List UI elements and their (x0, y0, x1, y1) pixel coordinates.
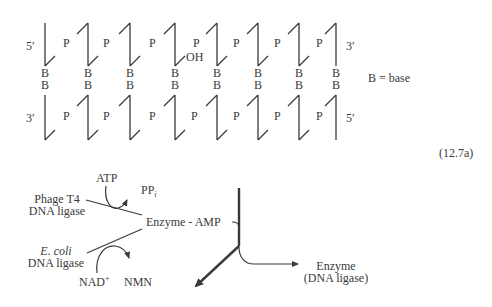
ecoli-line2: DNA ligase (28, 256, 84, 270)
bottom-strand-nucleotide (45, 95, 55, 140)
phosphate-label: P (63, 37, 70, 49)
atp-label: ATP (96, 172, 117, 184)
nad-text: NAD (79, 275, 105, 289)
base-label-bottom: B (126, 79, 134, 91)
top-strand-nucleotide (325, 23, 336, 66)
top-strand-nucleotide (77, 23, 98, 66)
phosphate-label: P (316, 110, 323, 122)
base-label-bottom: B (41, 79, 49, 91)
dna-diagonal-arrow (196, 246, 239, 286)
bottom-strand-5prime-label: 5′ (346, 112, 355, 124)
enzyme-release-arrow (239, 247, 298, 264)
phosphate-label: P (103, 110, 110, 122)
bottom-strand-nucleotide (247, 95, 268, 140)
phosphate-label: P (149, 37, 156, 49)
bottom-strand-nucleotide (206, 95, 227, 140)
base-label-bottom: B (254, 79, 262, 91)
top-strand-nucleotide (164, 23, 185, 66)
enzyme-dna-ligase-label: Enzyme (DNA ligase) (298, 260, 374, 284)
phage-t4-ligase-label: Phage T4 DNA ligase (26, 193, 88, 217)
phosphate-label: P (63, 110, 70, 122)
nad-superscript: + (105, 274, 110, 283)
ppi-subscript: i (154, 190, 156, 199)
base-label-bottom: B (332, 79, 340, 91)
phosphate-label: P (233, 110, 240, 122)
phage-t4-line2: DNA ligase (29, 204, 85, 218)
enzyme-amp-label: Enzyme - AMP (146, 216, 221, 228)
bottom-strand-nucleotide (164, 95, 185, 140)
phosphate-label: P (233, 37, 240, 49)
atp-curve-arrow (106, 186, 127, 208)
top-strand-nucleotide (45, 23, 55, 66)
equation-number: (12.7a) (439, 147, 473, 159)
phosphate-label: P (149, 110, 156, 122)
top-strand-3prime-label: 3′ (346, 40, 355, 52)
phosphate-label: P (274, 110, 281, 122)
top-strand-nucleotide (119, 23, 140, 66)
base-legend: B = base (368, 72, 410, 84)
product-line2: (DNA ligase) (304, 271, 368, 285)
phosphate-label: P (191, 110, 198, 122)
base-label-bottom: B (171, 79, 179, 91)
base-label-bottom: B (84, 79, 92, 91)
ppi-label: PPi (141, 184, 157, 196)
top-strand-nucleotide (288, 23, 309, 66)
bottom-strand-nucleotide (325, 95, 336, 140)
dna-ligase-figure: 5′ 3′ 3′ 5′ PPPPPPP PPPPPPP BBBBBBBBBBBB… (0, 0, 492, 307)
nad-curve-arrow (97, 246, 129, 273)
phosphate-label: P (193, 37, 200, 49)
bottom-strand-nucleotide (77, 95, 98, 140)
nad-label: NAD+ (79, 276, 110, 288)
nmn-label: NMN (124, 276, 152, 288)
top-strand-nucleotide (206, 23, 227, 66)
bottom-strand-nucleotide (119, 95, 140, 140)
ppi-text: PP (141, 183, 154, 197)
phosphate-label: P (274, 37, 281, 49)
base-label-bottom: B (295, 79, 303, 91)
base-label-bottom: B (213, 79, 221, 91)
nick-hydroxyl-label: OH (186, 51, 203, 63)
bottom-strand-nucleotide (288, 95, 309, 140)
top-strand-nucleotide (247, 23, 268, 66)
ecoli-ligase-label: E. coli DNA ligase (24, 245, 88, 269)
phosphate-label: P (103, 37, 110, 49)
ecoli-ligase-line (87, 229, 142, 253)
reaction-arrows (86, 186, 298, 286)
phosphate-label: P (316, 37, 323, 49)
bottom-strand-3prime-label: 3′ (26, 112, 35, 124)
top-strand-5prime-label: 5′ (26, 40, 35, 52)
